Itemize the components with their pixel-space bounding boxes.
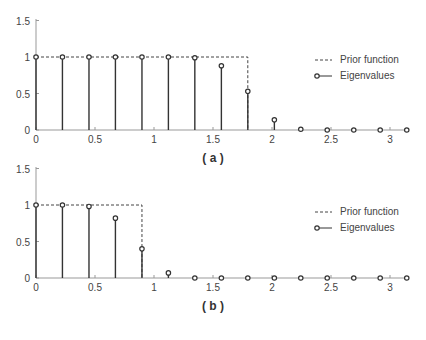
eigenvalue-marker — [34, 55, 38, 59]
eigenvalue-marker — [166, 55, 170, 59]
chart-panel-a: 00.511.522.5300.511.5Prior functionEigen… — [16, 16, 409, 166]
eigenvalue-marker — [352, 128, 356, 132]
eigenvalue-marker — [405, 276, 409, 280]
x-tick-label: 1.5 — [206, 282, 220, 293]
y-tick-label: 1.5 — [16, 16, 30, 27]
eigenvalue-marker — [378, 276, 382, 280]
eigenvalue-marker — [193, 56, 197, 60]
x-tick-label: 2 — [269, 134, 275, 145]
eigenvalue-marker — [272, 118, 276, 122]
x-tick-label: 3 — [387, 282, 393, 293]
eigenvalue-marker — [60, 203, 64, 207]
legend-label-prior: Prior function — [340, 54, 399, 65]
x-tick-label: 1.5 — [206, 134, 220, 145]
eigenvalue-marker — [246, 89, 250, 93]
eigenvalue-marker — [378, 128, 382, 132]
legend-marker-icon — [315, 226, 319, 230]
eigenvalue-marker — [60, 55, 64, 59]
eigenvalue-marker — [87, 204, 91, 208]
legend: Prior functionEigenvalues — [315, 54, 399, 81]
x-tick-label: 0.5 — [88, 134, 102, 145]
y-tick-label: 0.5 — [16, 237, 30, 248]
eigenvalue-marker — [113, 55, 117, 59]
eigenvalue-marker — [299, 127, 303, 131]
x-tick-label: 2.5 — [324, 134, 338, 145]
eigenvalue-marker — [272, 276, 276, 280]
y-tick-label: 0 — [24, 125, 30, 136]
eigenvalue-marker — [34, 203, 38, 207]
eigenvalue-marker — [219, 276, 223, 280]
x-tick-label: 1 — [151, 282, 157, 293]
x-tick-label: 2 — [269, 282, 275, 293]
eigenvalue-marker — [325, 128, 329, 132]
y-tick-label: 1 — [24, 200, 30, 211]
panel-caption: ( b ) — [202, 299, 224, 313]
eigenvalue-marker — [299, 276, 303, 280]
legend: Prior functionEigenvalues — [315, 206, 399, 233]
legend-label-eigenvalues: Eigenvalues — [340, 222, 394, 233]
eigenvalue-marker — [325, 276, 329, 280]
x-tick-label: 0 — [33, 282, 39, 293]
chart-panel-b: 00.511.522.5300.511.5Prior functionEigen… — [16, 164, 409, 314]
legend-marker-icon — [315, 74, 319, 78]
eigenvalue-marker — [140, 55, 144, 59]
eigenvalue-marker — [140, 247, 144, 251]
y-tick-label: 0 — [24, 273, 30, 284]
eigenvalue-marker — [352, 276, 356, 280]
x-tick-label: 3 — [387, 134, 393, 145]
eigenvalue-marker — [246, 276, 250, 280]
chart-canvas: 00.511.522.5300.511.5Prior functionEigen… — [0, 0, 426, 340]
x-tick-label: 0 — [33, 134, 39, 145]
y-tick-label: 1 — [24, 52, 30, 63]
eigenvalue-marker — [219, 64, 223, 68]
x-tick-label: 1 — [151, 134, 157, 145]
x-tick-label: 0.5 — [88, 282, 102, 293]
y-tick-label: 0.5 — [16, 89, 30, 100]
eigenvalue-marker — [405, 128, 409, 132]
eigenvalue-marker — [166, 271, 170, 275]
x-tick-label: 2.5 — [324, 282, 338, 293]
eigenvalue-marker — [113, 216, 117, 220]
eigenvalue-marker — [193, 276, 197, 280]
legend-label-eigenvalues: Eigenvalues — [340, 70, 394, 81]
y-tick-label: 1.5 — [16, 164, 30, 175]
eigenvalue-marker — [87, 55, 91, 59]
panel-caption: ( a ) — [202, 151, 223, 165]
legend-label-prior: Prior function — [340, 206, 399, 217]
